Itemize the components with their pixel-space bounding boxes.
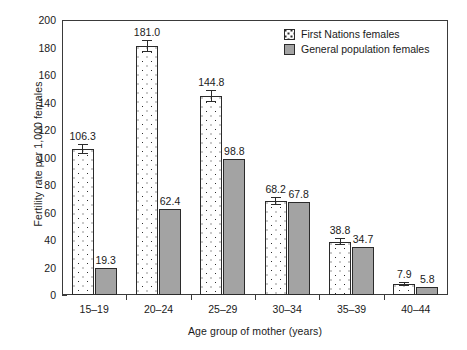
y-tick-label: 0 bbox=[14, 290, 56, 301]
error-bar-cap-top bbox=[206, 90, 216, 91]
bar-gp-30-34 bbox=[288, 202, 310, 295]
legend-item-general-population: General population females bbox=[284, 42, 429, 57]
error-bar-cap-bottom bbox=[142, 51, 152, 52]
legend-label-general-population: General population females bbox=[301, 42, 429, 57]
bar-fn-20-24 bbox=[136, 46, 158, 295]
y-tick-label: 180 bbox=[14, 43, 56, 54]
error-bar bbox=[142, 40, 152, 53]
x-axis-title: Age group of mother (years) bbox=[62, 325, 448, 337]
bar-value-label: 62.4 bbox=[160, 196, 180, 207]
x-tick-mark bbox=[319, 295, 320, 300]
y-tick-label: 60 bbox=[14, 208, 56, 219]
x-tick-mark bbox=[255, 295, 256, 300]
x-tick-mark bbox=[384, 295, 385, 300]
bar-fn-30-34 bbox=[265, 201, 287, 295]
y-tick-label: 40 bbox=[14, 235, 56, 246]
error-bar-cap-top bbox=[271, 197, 281, 198]
gray-swatch-icon bbox=[284, 44, 295, 55]
bar-value-label: 19.3 bbox=[95, 255, 115, 266]
y-tick-label: 140 bbox=[14, 98, 56, 109]
y-tick-mark bbox=[62, 295, 67, 296]
bar-value-label: 67.8 bbox=[288, 189, 308, 200]
chart-legend: First Nations females General population… bbox=[284, 27, 429, 57]
bar-gp-15-19 bbox=[95, 268, 117, 295]
bar-gp-20-24 bbox=[159, 209, 181, 295]
y-tick-label: 200 bbox=[14, 15, 56, 26]
bar-fn-15-19 bbox=[72, 149, 94, 295]
error-bar bbox=[399, 282, 409, 286]
error-bar-cap-bottom bbox=[335, 244, 345, 245]
error-bar-cap-top bbox=[335, 238, 345, 239]
error-bar-cap-bottom bbox=[206, 101, 216, 102]
dotted-white-swatch-icon bbox=[284, 29, 295, 40]
y-tick-label: 120 bbox=[14, 125, 56, 136]
x-axis-category-label: 40–44 bbox=[376, 303, 456, 315]
bar-value-label: 181.0 bbox=[134, 27, 160, 38]
bar-gp-35-39 bbox=[352, 247, 374, 295]
bar-value-label: 144.8 bbox=[198, 77, 224, 88]
error-bar-cap-bottom bbox=[271, 204, 281, 205]
y-tick-label: 100 bbox=[14, 153, 56, 164]
plot-area bbox=[62, 20, 448, 295]
error-bar-cap-bottom bbox=[78, 153, 88, 154]
error-bar-cap-top bbox=[399, 282, 409, 283]
error-bar bbox=[78, 144, 88, 153]
legend-label-first-nations: First Nations females bbox=[301, 27, 400, 42]
bar-value-label: 68.2 bbox=[265, 184, 285, 195]
bar-value-label: 98.8 bbox=[224, 146, 244, 157]
error-bar-cap-top bbox=[142, 40, 152, 41]
error-bar-cap-bottom bbox=[399, 285, 409, 286]
fertility-rate-bar-chart: Fertility rate per 1,000 females Age gro… bbox=[0, 0, 467, 350]
bar-fn-25-29 bbox=[200, 96, 222, 295]
error-bar bbox=[271, 197, 281, 205]
error-bar bbox=[206, 90, 216, 102]
bar-gp-40-44 bbox=[416, 287, 438, 295]
bar-value-label: 38.8 bbox=[330, 225, 350, 236]
y-tick-label: 20 bbox=[14, 263, 56, 274]
bar-gp-25-29 bbox=[223, 159, 245, 295]
error-bar-cap-top bbox=[78, 144, 88, 145]
bar-value-label: 106.3 bbox=[70, 131, 96, 142]
bar-value-label: 5.8 bbox=[420, 274, 435, 285]
bar-value-label: 7.9 bbox=[397, 269, 412, 280]
bar-value-label: 34.7 bbox=[353, 234, 373, 245]
x-tick-mark bbox=[126, 295, 127, 300]
legend-item-first-nations: First Nations females bbox=[284, 27, 429, 42]
y-tick-label: 160 bbox=[14, 70, 56, 81]
error-bar bbox=[335, 238, 345, 244]
bar-fn-35-39 bbox=[329, 242, 351, 295]
x-tick-mark bbox=[191, 295, 192, 300]
y-tick-label: 80 bbox=[14, 180, 56, 191]
